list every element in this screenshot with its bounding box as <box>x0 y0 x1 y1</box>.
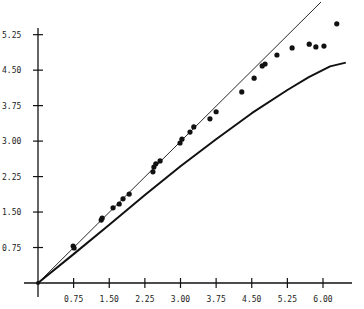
x-tick-label: 3.00 <box>171 295 190 304</box>
data-point <box>157 158 162 163</box>
y-tick-label: 3.75 <box>2 102 21 111</box>
data-point <box>262 61 267 66</box>
data-point <box>120 196 125 201</box>
y-tick-label: 5.25 <box>2 31 21 40</box>
data-point <box>179 137 184 142</box>
x-tick-label: 5.25 <box>278 295 297 304</box>
x-tick-label: 6.00 <box>313 295 332 304</box>
tick-labels: 0.751.502.253.003.754.505.256.000.751.50… <box>2 31 333 304</box>
x-tick-label: 1.50 <box>100 295 119 304</box>
data-point <box>187 130 192 135</box>
axes <box>24 28 352 297</box>
y-tick-label: 3.00 <box>2 137 21 146</box>
y-tick-label: 4.50 <box>2 66 21 75</box>
origin-point <box>36 281 40 285</box>
data-point <box>334 21 339 26</box>
data-point <box>313 44 318 49</box>
data-point <box>117 201 122 206</box>
y-tick-label: 2.25 <box>2 173 21 182</box>
data-point <box>239 89 244 94</box>
plot-lines <box>38 2 346 283</box>
x-tick-label: 4.50 <box>242 295 261 304</box>
data-points <box>36 21 339 285</box>
model-curve <box>38 63 346 283</box>
data-point <box>307 42 312 47</box>
data-point <box>110 205 115 210</box>
scatter-chart: 0.751.502.253.003.754.505.256.000.751.50… <box>0 0 364 309</box>
data-point <box>252 76 257 81</box>
data-point <box>72 245 77 250</box>
data-point <box>207 116 212 121</box>
data-point <box>100 216 105 221</box>
data-point <box>321 43 326 48</box>
data-point <box>153 161 158 166</box>
y-tick-label: 1.50 <box>2 208 21 217</box>
data-point <box>274 52 279 57</box>
data-point <box>127 191 132 196</box>
x-tick-label: 0.75 <box>64 295 83 304</box>
y-tick-label: 0.75 <box>2 244 21 253</box>
data-point <box>214 109 219 114</box>
x-tick-label: 3.75 <box>206 295 225 304</box>
x-tick-label: 2.25 <box>135 295 154 304</box>
data-point <box>290 45 295 50</box>
data-point <box>150 169 155 174</box>
data-point <box>191 124 196 129</box>
